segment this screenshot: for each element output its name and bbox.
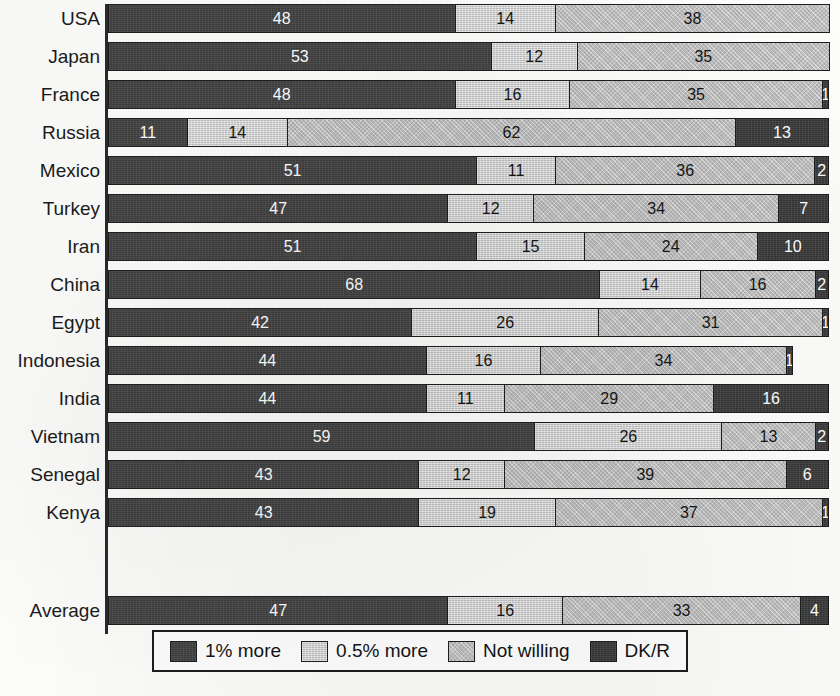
bar-segment-not-willing: 13 [721,422,815,451]
bar-segment-value: 1 [822,87,829,103]
bar-segment-dk-r: 2 [814,156,828,185]
bar-segment-1-more: 42 [108,308,412,337]
bar-segment-1-more: 47 [108,194,448,223]
bar-segment-value: 33 [673,603,691,619]
bar-segment-0-5-more: 14 [187,118,288,147]
legend-label: 0.5% more [336,640,428,662]
bar-segment-1-more: 43 [108,460,419,489]
bar-segment-value: 51 [284,239,302,255]
bar-segment-1-more: 51 [108,156,477,185]
bar-segment-value: 47 [269,603,287,619]
stacked-bar: 4716334 [108,596,832,625]
bar-segment-value: 13 [773,125,791,141]
row-label: Indonesia [0,346,100,375]
stacked-bar: 4816351 [108,80,832,109]
bar-segment-value: 2 [817,277,826,293]
category-axis-line [105,536,108,596]
bar-segment-dk-r: 1 [822,498,829,527]
chart-row: India44112916 [0,384,840,422]
bar-segment-not-willing: 62 [287,118,736,147]
bar-segment-value: 48 [273,11,291,27]
chart-row: USA481438 [0,4,840,42]
bar-segment-dk-r: 6 [786,460,829,489]
row-label: Mexico [0,156,100,185]
bar-segment-value: 2 [817,429,826,445]
bar-segment-dk-r: 1 [786,346,793,375]
chart-row: Turkey4712347 [0,194,840,232]
stacked-bar: 5926132 [108,422,832,451]
row-label: India [0,384,100,413]
legend-item-not-willing[interactable]: Not willing [448,640,570,662]
row-label: Vietnam [0,422,100,451]
bar-segment-dk-r: 7 [778,194,829,223]
bar-segment-value: 12 [482,201,500,217]
legend-item-1-more[interactable]: 1% more [170,640,281,662]
stacked-bar: 481438 [108,4,832,33]
row-label: Iran [0,232,100,261]
legend-label: 1% more [205,640,281,662]
row-label: Senegal [0,460,100,489]
bar-segment-value: 42 [251,315,269,331]
bar-segment-value: 43 [255,467,273,483]
stacked-bar: 4416341 [108,346,832,375]
legend-item-dk-r[interactable]: DK/R [590,640,670,662]
bar-segment-1-more: 48 [108,80,456,109]
bar-segment-dk-r: 2 [815,422,829,451]
bar-segment-value: 26 [619,429,637,445]
bar-segment-value: 16 [749,277,767,293]
chart-row: Kenya4319371 [0,498,840,536]
bar-segment-value: 47 [269,201,287,217]
bar-segment-0-5-more: 11 [426,384,506,413]
chart-row: Russia11146213 [0,118,840,156]
chart-row: Egypt4226311 [0,308,840,346]
bar-segment-not-willing: 37 [555,498,823,527]
bar-segment-value: 53 [291,49,309,65]
chart-row-average: Average4716334 [0,596,840,634]
legend-swatch-dk-r [590,641,617,662]
bar-segment-0-5-more: 26 [411,308,599,337]
bar-segment-1-more: 44 [108,346,427,375]
bar-segment-0-5-more: 26 [534,422,722,451]
stacked-bar: 4319371 [108,498,832,527]
row-label: Turkey [0,194,100,223]
stacked-bar: 6814162 [108,270,832,299]
bar-segment-0-5-more: 16 [455,80,571,109]
bar-segment-not-willing: 39 [504,460,786,489]
chart-row: Vietnam5926132 [0,422,840,460]
bar-segment-value: 59 [313,429,331,445]
bar-segment-not-willing: 31 [598,308,822,337]
bar-segment-value: 19 [478,505,496,521]
bar-segment-value: 35 [694,49,712,65]
bar-segment-not-willing: 29 [504,384,714,413]
bar-segment-dk-r: 13 [735,118,829,147]
bar-segment-dk-r: 16 [713,384,829,413]
bar-segment-1-more: 11 [108,118,188,147]
legend-label: DK/R [625,640,670,662]
bar-segment-value: 34 [647,201,665,217]
bar-segment-0-5-more: 14 [599,270,700,299]
bar-segment-not-willing: 34 [533,194,779,223]
bar-segment-not-willing: 34 [540,346,786,375]
bar-segment-dk-r: 1 [822,80,829,109]
chart-row-spacer [0,536,840,596]
row-label: Average [0,596,100,625]
bar-segment-0-5-more: 19 [418,498,556,527]
stacked-bar: 11146213 [108,118,832,147]
bar-segment-value: 14 [228,125,246,141]
bar-segment-value: 12 [525,49,543,65]
bar-segment-value: 62 [503,125,521,141]
bar-segment-not-willing: 35 [569,80,822,109]
row-label: France [0,80,100,109]
bar-segment-value: 29 [600,391,618,407]
legend-item-0-5-more[interactable]: 0.5% more [301,640,428,662]
chart-legend: 1% more0.5% moreNot willingDK/R [152,630,688,672]
bar-segment-dk-r: 1 [822,308,829,337]
cropped-title-sliver [0,0,840,5]
bar-segment-value: 10 [784,239,802,255]
bar-segment-value: 37 [680,505,698,521]
stacked-bar-chart: USA481438Japan531235France4816351Russia1… [0,4,840,634]
bar-segment-value: 31 [702,315,720,331]
bar-segment-value: 1 [822,505,829,521]
bar-segment-1-more: 47 [108,596,448,625]
bar-segment-value: 26 [496,315,514,331]
